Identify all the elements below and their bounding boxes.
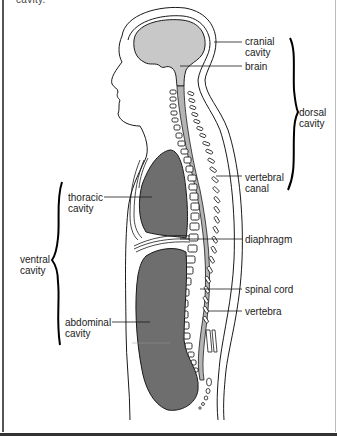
dorsal-cavity-brace [288, 38, 298, 190]
label-abdominal-cavity: abdominal cavity [65, 317, 111, 339]
label-dorsal-cavity: dorsal cavity [299, 107, 326, 129]
coccyx [199, 378, 212, 409]
label-vertebral-canal: vertebral canal [245, 172, 284, 194]
label-diaphragm: diaphragm [245, 234, 292, 245]
label-vertebra: vertebra [245, 306, 282, 317]
thoracic-cavity-shape [139, 150, 187, 238]
body-cavities-illustration [0, 0, 337, 436]
label-ventral-cavity: ventral cavity [20, 254, 50, 276]
label-brain: brain [245, 61, 267, 72]
label-thoracic-cavity: thoracic cavity [68, 192, 103, 214]
label-spinal-cord: spinal cord [245, 284, 293, 295]
label-cranial-cavity: cranial cavity [245, 36, 274, 58]
diagram-frame: cavity. [0, 0, 337, 436]
ventral-cavity-brace [52, 182, 62, 345]
brain-shape [134, 20, 205, 86]
